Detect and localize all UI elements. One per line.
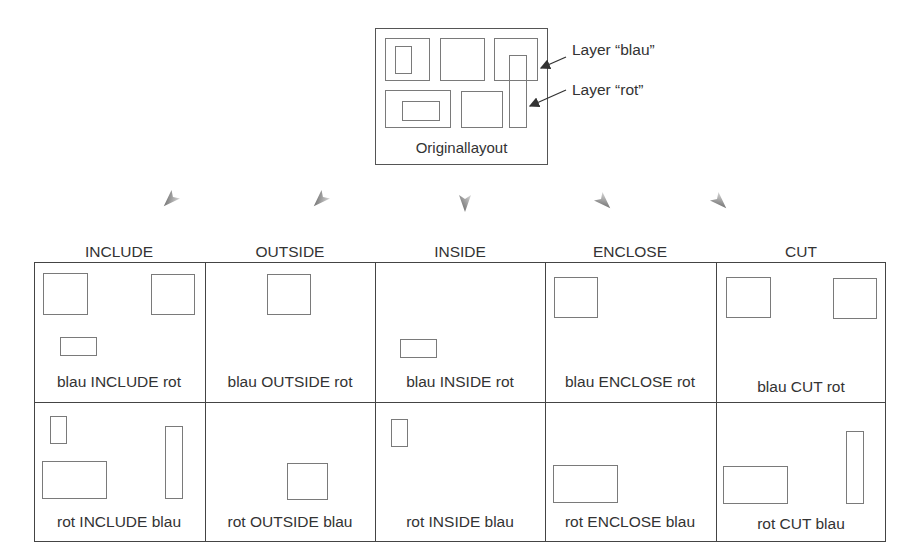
cell-label: rot INSIDE blau bbox=[375, 513, 545, 531]
result-rect bbox=[846, 431, 864, 504]
result-rect bbox=[723, 466, 788, 504]
orig-rect-d bbox=[461, 91, 503, 128]
orig-rect-a-inner bbox=[395, 46, 412, 74]
op-header-enclose: ENCLOSE bbox=[545, 243, 715, 261]
cell-blau-cut-rot: blau CUT rot bbox=[716, 262, 886, 402]
cell-blau-outside-rot: blau OUTSIDE rot bbox=[205, 262, 375, 402]
op-header-include: INCLUDE bbox=[34, 243, 204, 261]
cell-label: rot ENCLOSE blau bbox=[545, 513, 715, 531]
op-header-inside: INSIDE bbox=[375, 243, 545, 261]
cell-blau-include-rot: blau INCLUDE rot bbox=[34, 262, 204, 402]
down-arrow-icon bbox=[459, 195, 471, 212]
result-rect bbox=[726, 277, 771, 318]
layer-blau-label: Layer “blau” bbox=[572, 41, 655, 59]
result-rect bbox=[833, 278, 877, 319]
cell-label: blau INCLUDE rot bbox=[34, 373, 204, 391]
cell-label: blau CUT rot bbox=[716, 378, 886, 396]
orig-rect-b bbox=[440, 38, 485, 81]
orig-rect-c-inner bbox=[402, 101, 440, 121]
op-header-cut: CUT bbox=[716, 243, 886, 261]
cell-label: rot OUTSIDE blau bbox=[205, 513, 375, 531]
cell-blau-enclose-rot: blau ENCLOSE rot bbox=[545, 262, 715, 402]
cell-rot-inside-blau: rot INSIDE blau bbox=[375, 402, 545, 542]
result-rect bbox=[400, 339, 437, 358]
op-header-outside: OUTSIDE bbox=[205, 243, 375, 261]
result-rect bbox=[267, 274, 311, 315]
cell-label: rot CUT blau bbox=[716, 515, 886, 533]
result-rect bbox=[391, 419, 408, 447]
cell-rot-cut-blau: rot CUT blau bbox=[716, 402, 886, 542]
down-right-arrow-icon-2 bbox=[710, 192, 731, 213]
result-rect bbox=[43, 273, 88, 315]
result-rect bbox=[554, 277, 598, 318]
cell-rot-enclose-blau: rot ENCLOSE blau bbox=[545, 402, 715, 542]
cell-blau-inside-rot: blau INSIDE rot bbox=[375, 262, 545, 402]
orig-rect-rot-vertical bbox=[509, 55, 527, 128]
cell-rot-include-blau: rot INCLUDE blau bbox=[34, 402, 204, 542]
cell-label: blau OUTSIDE rot bbox=[205, 373, 375, 391]
result-rect bbox=[165, 426, 183, 499]
down-right-arrow-icon-1 bbox=[594, 192, 615, 213]
cell-label: rot INCLUDE blau bbox=[34, 513, 204, 531]
result-rect bbox=[287, 463, 328, 500]
result-rect bbox=[50, 416, 67, 444]
cell-rot-outside-blau: rot OUTSIDE blau bbox=[205, 402, 375, 542]
original-layout-caption: Originallayout bbox=[375, 139, 548, 156]
result-rect bbox=[151, 274, 195, 315]
down-left-arrow-icon-2 bbox=[310, 190, 331, 211]
result-rect bbox=[553, 465, 618, 503]
cell-label: blau ENCLOSE rot bbox=[545, 373, 715, 391]
cell-label: blau INSIDE rot bbox=[375, 373, 545, 391]
result-rect bbox=[42, 461, 107, 499]
layer-rot-label: Layer “rot” bbox=[572, 81, 644, 99]
result-rect bbox=[60, 337, 97, 356]
down-left-arrow-icon-1 bbox=[160, 190, 181, 211]
